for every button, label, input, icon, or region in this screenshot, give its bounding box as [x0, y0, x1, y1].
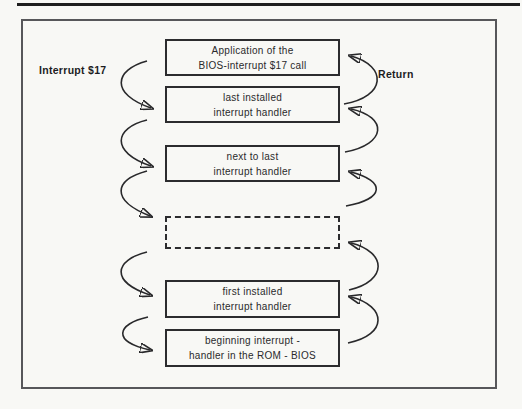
- box-next-to-last-handler: next to last interrupt handler: [165, 145, 340, 182]
- box-first-installed-handler: first installed interrupt handler: [165, 280, 340, 318]
- return-arrow-5: [348, 297, 378, 343]
- return-arrow-2: [345, 109, 378, 152]
- box-omitted-handlers-placeholder: [165, 216, 340, 249]
- call-arrow-5: [123, 317, 150, 350]
- box-rom-bios-handler: beginning interrupt - handler in the ROM…: [165, 329, 340, 367]
- call-arrow-2: [121, 120, 151, 166]
- call-arrow-1: [121, 61, 151, 108]
- scanned-figure-page: Application of the BIOS-interrupt $17 ca…: [0, 0, 522, 409]
- return-arrow-4: [349, 243, 378, 290]
- box-application-line1: Application of the: [211, 43, 293, 58]
- box-last-installed-line2: interrupt handler: [214, 105, 292, 120]
- box-application: Application of the BIOS-interrupt $17 ca…: [165, 39, 340, 76]
- interrupt-call-label: Interrupt $17: [39, 64, 107, 76]
- return-arrow-3: [346, 172, 376, 206]
- return-arrow-1: [344, 56, 377, 104]
- box-first-installed-line1: first installed: [222, 284, 282, 299]
- box-next-to-last-line2: interrupt handler: [214, 164, 292, 179]
- box-last-installed-line1: last installed: [223, 90, 282, 105]
- box-rom-bios-line1: beginning interrupt -: [205, 333, 300, 348]
- box-next-to-last-line1: next to last: [227, 149, 279, 164]
- box-first-installed-line2: interrupt handler: [214, 299, 292, 314]
- box-last-installed-handler: last installed interrupt handler: [165, 86, 340, 123]
- call-arrow-3: [121, 171, 150, 216]
- return-label: Return: [378, 68, 414, 80]
- call-arrow-4: [121, 252, 150, 295]
- box-application-line2: BIOS-interrupt $17 call: [198, 58, 306, 73]
- box-rom-bios-line2: handler in the ROM - BIOS: [189, 348, 316, 363]
